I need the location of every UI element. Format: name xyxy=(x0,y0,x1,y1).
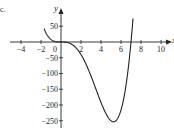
x-tick-label: 8 xyxy=(139,45,143,54)
y-tick-label: −200 xyxy=(41,101,58,110)
x-tick-label: −4 xyxy=(17,45,26,54)
y-tick-label: −150 xyxy=(41,85,58,94)
y-tick-label: 50 xyxy=(50,22,58,31)
y-tick-label: −250 xyxy=(41,117,58,126)
tick-labels: −4−2024681050−50−100−150−200−250 xyxy=(17,22,165,126)
y-tick-label: −100 xyxy=(41,69,58,78)
y-tick-label: −50 xyxy=(45,54,58,63)
x-tick-label: 6 xyxy=(119,45,123,54)
x-tick-label: 10 xyxy=(157,45,165,54)
x-tick-label: −2 xyxy=(37,45,46,54)
function-plot: c. xy −4−2024681050−50−100−150−200−250 xyxy=(0,0,174,128)
x-tick-label: 4 xyxy=(99,45,103,54)
y-axis-arrow-icon xyxy=(59,8,64,14)
corner-label: c. xyxy=(0,5,6,14)
x-axis-label: x xyxy=(171,35,174,45)
y-axis-label: y xyxy=(53,3,58,13)
axes: xy xyxy=(10,3,174,128)
